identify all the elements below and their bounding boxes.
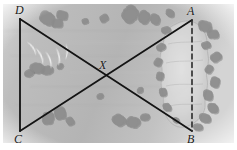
terrain-photo	[0, 0, 237, 150]
vertex-label-C: C	[14, 133, 22, 145]
vertex-label-B: B	[187, 133, 194, 145]
vertex-label-D: D	[15, 4, 24, 16]
vertex-label-A: A	[187, 5, 194, 17]
photo-vignette	[0, 0, 237, 150]
intersection-label-X: X	[99, 59, 106, 71]
diagram-canvas	[0, 0, 237, 150]
surveying-diagram-figure: D A C B X	[0, 0, 237, 150]
